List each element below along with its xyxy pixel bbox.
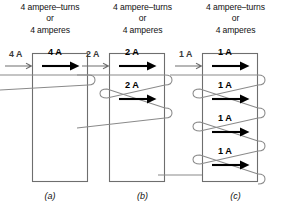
- panel-a: 4 ampere–turns or 4 amperes 4 A 4 A (a): [0, 0, 100, 214]
- turn-hook-c-right-3: [200, 141, 265, 164]
- panel-a-drawing: [0, 0, 100, 214]
- panel-c: 4 ampere–turns or 4 amperes: [188, 0, 283, 214]
- turn-hook-c-right-4: [258, 174, 265, 184]
- panel-c-label: (c): [188, 191, 283, 201]
- turn-current-label-c-2: 1 A: [218, 80, 232, 90]
- current-arrowhead-c-2: [240, 95, 250, 104]
- turn-current-label-c-1: 1 A: [218, 47, 232, 57]
- panel-b: 4 ampere–turns or 4 amperes 2 A 2 A: [95, 0, 190, 214]
- panel-b-drawing: [95, 0, 190, 214]
- turn-current-label-b-2: 2 A: [125, 80, 139, 90]
- turn-current-label-b-1: 2 A: [125, 47, 139, 57]
- turn-hook-a-right: [0, 75, 95, 90]
- panel-a-label: (a): [0, 191, 100, 201]
- current-arrowhead-c-3: [240, 128, 250, 137]
- core-b: [110, 54, 165, 182]
- lead-arrowhead-a: [5, 63, 32, 69]
- turn-current-label-c-3: 1 A: [218, 113, 232, 123]
- lead-current-label-a: 4 A: [9, 49, 22, 59]
- current-arrowhead-c-4: [240, 161, 250, 170]
- current-arrowhead-b-2: [147, 95, 157, 104]
- turn-current-label-c-4: 1 A: [218, 146, 232, 156]
- panel-b-label: (b): [95, 191, 190, 201]
- figure-root: 4 ampere–turns or 4 amperes 4 A 4 A (a) …: [0, 0, 283, 214]
- lead-current-label-b: 2 A: [86, 49, 99, 59]
- turn-current-label-a-1: 4 A: [48, 47, 62, 57]
- turn-hook-c-right-1: [200, 75, 265, 98]
- lead-current-label-c: 1 A: [179, 49, 192, 59]
- current-arrowhead-c-1: [240, 62, 250, 71]
- current-arrowhead-b-1: [147, 62, 157, 71]
- panel-c-drawing: [188, 0, 283, 214]
- core-a: [33, 54, 88, 182]
- turn-hook-b-right-1: [107, 75, 172, 98]
- current-arrowhead-a-1: [70, 62, 80, 71]
- turn-hook-c-right-2: [200, 108, 265, 131]
